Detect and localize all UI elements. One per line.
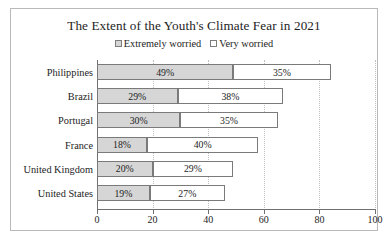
legend-label: Extremely worried <box>124 38 201 49</box>
bar-segment[interactable]: 29% <box>97 88 178 104</box>
chart-figure: The Extent of the Youth's Climate Fear i… <box>10 8 378 231</box>
category-label: United Kingdom <box>24 163 94 174</box>
bar-row: France18%40% <box>97 137 375 153</box>
legend-item-very-worried[interactable]: Very worried <box>210 38 273 49</box>
bar-segment[interactable]: 27% <box>150 185 225 201</box>
category-label: Brazil <box>68 91 93 102</box>
legend-label: Very worried <box>219 38 273 49</box>
bar-row: Portugal30%35% <box>97 112 375 128</box>
bar-row: United States19%27% <box>97 185 375 201</box>
x-axis-line <box>97 209 376 210</box>
legend-swatch-icon <box>115 40 122 47</box>
x-tick-label: 20 <box>148 214 158 225</box>
bar-segment[interactable]: 35% <box>180 112 277 128</box>
chart-legend: Extremely worried Very worried <box>11 38 377 49</box>
legend-swatch-icon <box>210 40 217 47</box>
bar-row: Brazil29%38% <box>97 88 375 104</box>
category-label: Philippines <box>47 67 93 78</box>
bar-segment[interactable]: 40% <box>147 137 258 153</box>
bar-row: United Kingdom20%29% <box>97 161 375 177</box>
chart-title: The Extent of the Youth's Climate Fear i… <box>11 18 377 34</box>
gridline <box>375 60 376 208</box>
bar-segment[interactable]: 35% <box>233 64 330 80</box>
bar-segment[interactable]: 38% <box>178 88 284 104</box>
bar-segment[interactable]: 49% <box>97 64 233 80</box>
x-tick-label: 80 <box>314 214 324 225</box>
x-tick-label: 60 <box>259 214 269 225</box>
bar-segment[interactable]: 19% <box>97 185 150 201</box>
bar-row: Philippines49%35% <box>97 64 375 80</box>
bar-segment[interactable]: 20% <box>97 161 153 177</box>
legend-item-extremely-worried[interactable]: Extremely worried <box>115 38 201 49</box>
category-label: France <box>65 139 93 150</box>
x-tick-label: 0 <box>95 214 100 225</box>
bar-segment[interactable]: 29% <box>153 161 234 177</box>
category-label: Portugal <box>58 115 93 126</box>
plot-area: Philippines49%35%Brazil29%38%Portugal30%… <box>97 60 375 208</box>
bar-segment[interactable]: 30% <box>97 112 180 128</box>
x-tick-label: 40 <box>203 214 213 225</box>
x-tick-label: 100 <box>368 214 383 225</box>
bar-segment[interactable]: 18% <box>97 137 147 153</box>
category-label: United States <box>38 188 93 199</box>
